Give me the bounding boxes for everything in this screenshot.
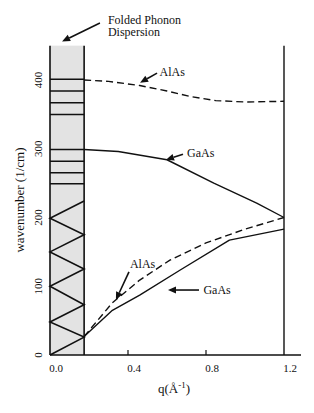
x-axis-label: q(Å-1)	[158, 380, 190, 396]
phonon-dispersion-figure: 0.00.40.81.20100200300400 Folded PhononD…	[0, 0, 314, 413]
folded-zone-fill	[50, 46, 84, 355]
annotation-label: AlAs	[130, 257, 156, 271]
y-tick-label: 200	[32, 209, 44, 226]
arrow-shaft	[69, 23, 100, 38]
chart-canvas: 0.00.40.81.20100200300400 Folded PhononD…	[0, 0, 314, 413]
y-axis-label: wavenumber (1/cm)	[12, 147, 27, 252]
x-tick-label: 0.0	[49, 362, 63, 374]
annotation: AlAs	[116, 257, 156, 300]
arrow-shaft	[174, 154, 183, 157]
x-tick-label: 0.8	[205, 362, 219, 374]
arrow-shaft	[119, 272, 129, 293]
y-tick-label: 300	[32, 140, 44, 157]
x-axis-label-superscript: -1	[178, 380, 186, 390]
series-alas-optical	[84, 80, 284, 102]
x-tick-label: 1.2	[283, 362, 297, 374]
y-tick-label: 400	[32, 71, 44, 88]
x-axis-label-close: )	[186, 381, 190, 396]
series-gaas-acoustic	[84, 229, 284, 336]
arrow-shaft	[147, 73, 157, 79]
arrow-head-icon	[166, 154, 175, 161]
y-tick-label: 0	[32, 352, 44, 358]
folded-zone-band	[50, 46, 84, 355]
series-gaas-optical	[84, 149, 284, 217]
annotation-label: AlAs	[160, 65, 186, 79]
annotation: AlAs	[140, 65, 185, 83]
annotation-label: Dispersion	[108, 25, 160, 39]
arrow-head-icon	[168, 287, 176, 294]
series-group	[84, 80, 284, 336]
x-axis-label-base: q(Å	[158, 381, 179, 396]
x-tick-label: 0.4	[127, 362, 141, 374]
annotation-label: GaAs	[187, 146, 215, 160]
y-tick-label: 100	[32, 278, 44, 295]
annotation: Folded PhononDispersion	[62, 13, 181, 41]
annotation-label: GaAs	[203, 283, 231, 297]
annotation: GaAs	[166, 146, 215, 161]
annotation: GaAs	[168, 283, 231, 297]
